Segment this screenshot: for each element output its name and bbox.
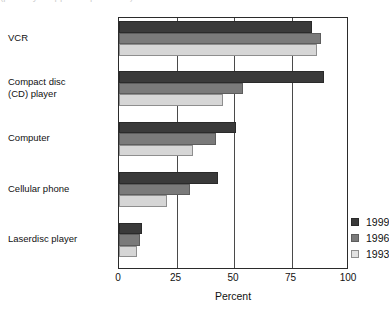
bar bbox=[119, 234, 140, 246]
legend-item-1993: 1993 bbox=[351, 247, 389, 261]
bar bbox=[119, 223, 142, 235]
x-tick-label-25: 25 bbox=[170, 272, 181, 283]
category-label: VCR bbox=[8, 32, 116, 44]
bar bbox=[119, 195, 167, 207]
x-axis-ticks: 0255075100 bbox=[118, 272, 348, 286]
bar bbox=[119, 44, 317, 56]
x-tick-label-0: 0 bbox=[115, 272, 121, 283]
legend-label: 1993 bbox=[366, 248, 389, 260]
bar bbox=[119, 21, 312, 33]
bar bbox=[119, 184, 190, 196]
bar bbox=[119, 133, 216, 145]
category-label-line: (CD) player bbox=[8, 88, 116, 100]
bar bbox=[119, 71, 324, 83]
legend-swatch-icon bbox=[351, 218, 359, 226]
bar bbox=[119, 122, 236, 134]
category-label: Computer bbox=[8, 132, 116, 144]
category-label-line: VCR bbox=[8, 32, 116, 44]
category-label-column: VCRCompact disc(CD) playerComputerCellul… bbox=[8, 17, 116, 269]
bar bbox=[119, 172, 218, 184]
category-label-line: Computer bbox=[8, 132, 116, 144]
x-tick-label-100: 100 bbox=[340, 272, 357, 283]
category-label: Compact disc(CD) player bbox=[8, 76, 116, 99]
bar bbox=[119, 246, 137, 258]
category-label: Cellular phone bbox=[8, 183, 116, 195]
plot-area: 199919961993 bbox=[118, 17, 348, 269]
bar bbox=[119, 83, 243, 95]
legend-label: 1996 bbox=[366, 232, 389, 244]
bar bbox=[119, 145, 193, 157]
x-axis-title: Percent bbox=[118, 290, 348, 302]
x-tick-label-75: 75 bbox=[285, 272, 296, 283]
legend-item-1999: 1999 bbox=[351, 215, 389, 229]
legend-swatch-icon bbox=[351, 234, 359, 242]
bar bbox=[119, 33, 321, 45]
bar bbox=[119, 94, 223, 106]
category-label-line: Compact disc bbox=[8, 76, 116, 88]
legend-item-1996: 1996 bbox=[351, 231, 389, 245]
category-label-line: Laserdisc player bbox=[8, 233, 116, 245]
legend-swatch-icon bbox=[351, 250, 359, 258]
clipped-caption-text: (partially cropped caption line) bbox=[0, 0, 373, 5]
bar-series-container bbox=[119, 18, 347, 268]
x-tick-label-50: 50 bbox=[227, 272, 238, 283]
legend: 199919961993 bbox=[351, 215, 389, 263]
category-label-line: Cellular phone bbox=[8, 183, 116, 195]
category-label: Laserdisc player bbox=[8, 233, 116, 245]
legend-label: 1999 bbox=[366, 216, 389, 228]
